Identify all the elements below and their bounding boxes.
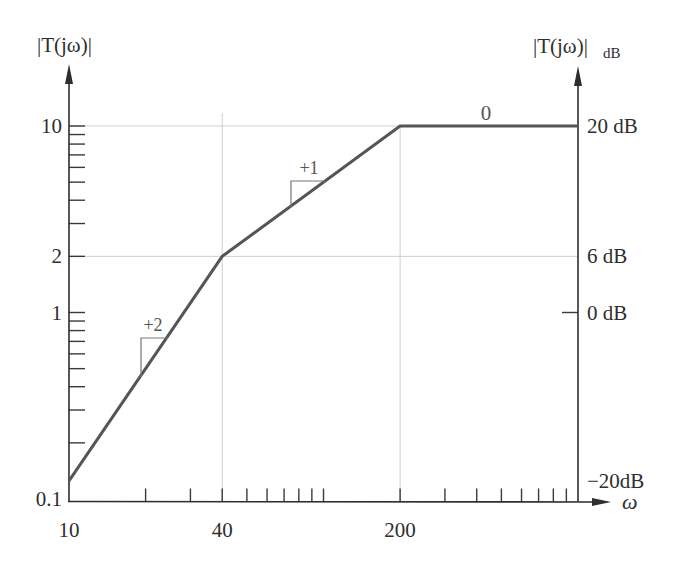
slope-annotations: +2+10 [141,101,491,377]
right-y-axis-arrow-icon [574,66,582,86]
magnitude-asymptote-line [69,126,578,481]
slope-label: +2 [143,315,162,335]
right-y-tick-label: 20 dB [587,114,638,138]
x-axis [68,502,596,503]
right-axis-title: |T(jω)| [533,34,588,58]
magnitude-curve [69,126,578,481]
left-y-tick-label: 1 [52,301,63,325]
right-axis-title-subscript: dB [603,45,621,61]
right-y-tick-label: 0 dB [587,301,627,325]
x-axis-title: ω [622,489,638,514]
slope-label: 0 [481,101,492,125]
x-tick-label: 10 [59,518,80,542]
slope-label: +1 [299,158,318,178]
x-tick-label: 200 [384,518,416,542]
bode-magnitude-chart: +2+10 10402000.1121020 dB6 dB0 dB−20dB |… [0,0,686,565]
left-y-tick-label: 0.1 [36,487,62,511]
x-axis-arrow-icon [592,498,611,506]
x-tick-label: 40 [212,518,233,542]
left-y-axis-arrow-icon [65,64,73,84]
left-axis-title: |T(jω)| [37,33,92,57]
left-y-tick-label: 10 [41,114,62,138]
right-y-tick-label: 6 dB [587,244,627,268]
tick-labels: 10402000.1121020 dB6 dB0 dB−20dB [36,114,645,542]
grid-lines [69,113,578,502]
left-y-tick-label: 2 [52,244,63,268]
